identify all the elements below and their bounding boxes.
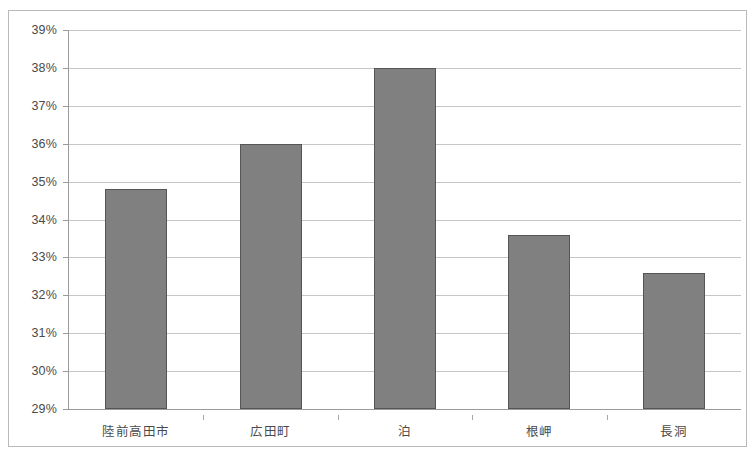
y-tick-mark	[63, 333, 69, 334]
x-axis-label-泊: 泊	[398, 421, 412, 440]
y-axis-tick-label: 38%	[31, 61, 57, 75]
y-axis-tick-label: 29%	[31, 402, 57, 416]
y-tick-mark	[63, 68, 69, 69]
y-tick-mark	[63, 371, 69, 372]
x-axis-separator	[607, 415, 608, 420]
y-tick-mark	[63, 30, 69, 31]
y-tick-mark	[63, 182, 69, 183]
y-axis-tick-label: 33%	[31, 250, 57, 264]
y-tick-mark	[63, 144, 69, 145]
bar-長洞	[643, 273, 705, 409]
y-tick-mark	[63, 295, 69, 296]
y-tick-mark	[63, 409, 69, 410]
x-axis-separator	[338, 415, 339, 420]
x-axis-label-根岬: 根岬	[526, 421, 553, 440]
bar-根岬	[508, 235, 570, 409]
y-tick-mark	[63, 106, 69, 107]
gridline-29	[69, 409, 741, 410]
y-axis-tick-label: 39%	[31, 23, 57, 37]
gridline-39	[69, 30, 741, 31]
chart-frame: 29%30%31%32%33%34%35%36%37%38%39% 陸前高田市広…	[8, 10, 747, 447]
y-axis-tick-label: 37%	[31, 99, 57, 113]
bar-広田町	[240, 144, 302, 409]
x-axis-label-広田町: 広田町	[250, 421, 291, 440]
x-axis-labels: 陸前高田市広田町泊根岬長洞	[69, 415, 741, 447]
plot-area: 29%30%31%32%33%34%35%36%37%38%39%	[69, 30, 741, 409]
y-axis-tick-label: 32%	[31, 288, 57, 302]
bar-泊	[374, 68, 436, 409]
y-axis-tick-label: 34%	[31, 213, 57, 227]
y-tick-mark	[63, 220, 69, 221]
y-axis-tick-label: 36%	[31, 137, 57, 151]
x-axis-separator	[472, 415, 473, 420]
x-axis-separator	[203, 415, 204, 420]
x-axis-label-長洞: 長洞	[660, 421, 687, 440]
y-tick-mark	[63, 257, 69, 258]
y-axis-tick-label: 35%	[31, 175, 57, 189]
y-axis-tick-label: 30%	[31, 364, 57, 378]
x-axis-label-陸前高田市: 陸前高田市	[102, 421, 170, 440]
y-axis-tick-label: 31%	[31, 326, 57, 340]
bar-陸前高田市	[105, 189, 167, 409]
